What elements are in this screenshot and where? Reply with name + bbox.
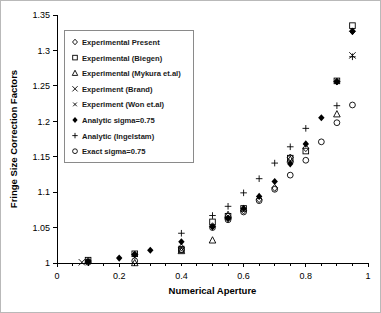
legend-item-6[interactable]: Analytic (Ingelstam) bbox=[72, 132, 154, 141]
legend-item-label: Experiment (Won et.al) bbox=[82, 100, 165, 109]
legend-item-1[interactable]: Experimental (Biegen) bbox=[73, 54, 163, 63]
legend-item-label: Experimental (Biegen) bbox=[82, 54, 163, 63]
x-tick-label: 0.2 bbox=[113, 271, 126, 281]
data-point-marker bbox=[256, 175, 263, 182]
data-point-marker bbox=[349, 54, 356, 61]
y-tick-label: 1.25 bbox=[32, 81, 50, 91]
data-point-marker bbox=[178, 238, 184, 245]
data-point-marker bbox=[318, 114, 324, 121]
legend-item-label: Analytic (Ingelstam) bbox=[82, 132, 155, 141]
legend-item-5[interactable]: Analytic sigma=0.75 bbox=[72, 116, 155, 125]
y-axis-title: Fringe Size Correction Factors bbox=[8, 70, 19, 208]
data-point-marker bbox=[79, 259, 85, 265]
data-point-marker bbox=[350, 102, 356, 108]
x-tick-label: 1 bbox=[365, 271, 370, 281]
legend-item-label: Experiment (Brand) bbox=[82, 85, 153, 94]
y-tick-label: 1.1 bbox=[37, 187, 50, 197]
legend-item-label: Exact sigma=0.75 bbox=[82, 147, 146, 156]
legend-item-0[interactable]: Experimental Present bbox=[73, 38, 161, 47]
data-point-marker bbox=[334, 111, 341, 117]
x-tick-label: 0 bbox=[54, 271, 59, 281]
y-tick-label: 1.35 bbox=[32, 10, 50, 20]
data-point-marker bbox=[209, 212, 216, 219]
legend-box bbox=[64, 30, 193, 162]
data-point-marker bbox=[240, 190, 247, 197]
x-tick-label: 0.4 bbox=[175, 271, 188, 281]
data-point-marker bbox=[271, 160, 278, 167]
data-point-marker bbox=[334, 102, 341, 109]
data-point-marker bbox=[334, 120, 340, 126]
x-tick-label: 0.6 bbox=[237, 271, 250, 281]
data-point-marker bbox=[287, 172, 293, 178]
data-point-marker bbox=[287, 143, 294, 150]
data-point-marker bbox=[209, 237, 216, 243]
chart-figure: 00.20.40.60.8111.051.11.151.21.251.31.35… bbox=[0, 0, 381, 313]
legend-item-7[interactable]: Exact sigma=0.75 bbox=[73, 147, 147, 156]
data-point-marker bbox=[147, 247, 153, 254]
legend-item-3[interactable]: Experiment (Brand) bbox=[72, 85, 153, 94]
legend: Experimental PresentExperimental (Biegen… bbox=[64, 30, 193, 162]
y-tick-label: 1.05 bbox=[32, 223, 50, 233]
data-point-marker bbox=[178, 230, 185, 237]
scatter-plot: 00.20.40.60.8111.051.11.151.21.251.31.35… bbox=[1, 1, 381, 313]
y-tick-label: 1 bbox=[45, 258, 50, 268]
data-point-marker bbox=[116, 254, 122, 261]
legend-item-2[interactable]: Experimental (Mykura et.al) bbox=[72, 69, 181, 78]
data-point-marker bbox=[272, 178, 278, 185]
legend-item-label: Experimental Present bbox=[82, 38, 160, 47]
x-axis-title: Numerical Aperture bbox=[169, 285, 257, 296]
data-point-marker bbox=[225, 203, 232, 210]
legend-item-4[interactable]: Experiment (Won et.al) bbox=[73, 100, 164, 109]
data-point-marker bbox=[303, 125, 310, 132]
y-tick-label: 1.15 bbox=[32, 152, 50, 162]
data-point-marker bbox=[303, 140, 309, 147]
legend-item-label: Analytic sigma=0.75 bbox=[82, 116, 156, 125]
series-6 bbox=[178, 54, 356, 237]
legend-item-label: Experimental (Mykura et.al) bbox=[82, 69, 181, 78]
data-point-marker bbox=[303, 157, 309, 163]
x-tick-label: 0.8 bbox=[300, 271, 313, 281]
data-point-marker bbox=[318, 139, 324, 145]
y-tick-label: 1.2 bbox=[37, 117, 50, 127]
y-tick-label: 1.3 bbox=[37, 46, 50, 56]
